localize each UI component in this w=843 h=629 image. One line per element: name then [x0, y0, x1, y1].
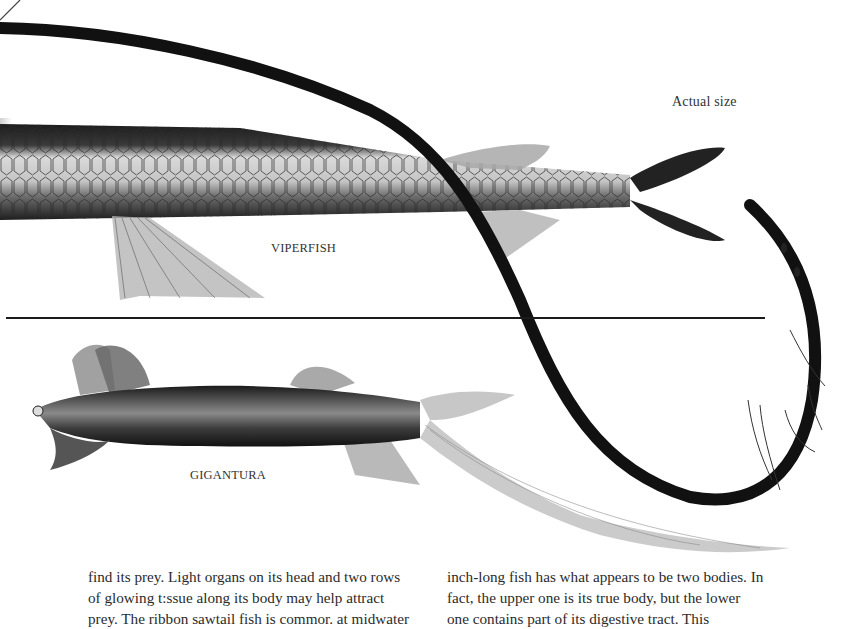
text-line: fact, the upper one is its true body, bu… — [447, 587, 797, 608]
section-divider — [6, 317, 765, 319]
text-line: inch-long fish has what appears to be tw… — [447, 566, 797, 587]
gigantura-caption: GIGANTURA — [190, 468, 266, 483]
text-line: find its prey. Light organs on its head … — [88, 566, 418, 587]
text-line: one contains part of its digestive tract… — [447, 608, 797, 629]
text-line: of glowing t:ssue along its body may hel… — [88, 587, 418, 608]
text-line: prey. The ribbon sawtail fish is commor.… — [88, 608, 418, 629]
viperfish-caption: VIPERFISH — [271, 241, 336, 256]
gigantura-illustration — [33, 345, 790, 552]
body-text-left-column: find its prey. Light organs on its head … — [88, 566, 418, 629]
body-text-right-column: inch-long fish has what appears to be tw… — [447, 566, 797, 629]
actual-size-label: Actual size — [672, 94, 737, 110]
viperfish-illustration — [0, 124, 725, 300]
